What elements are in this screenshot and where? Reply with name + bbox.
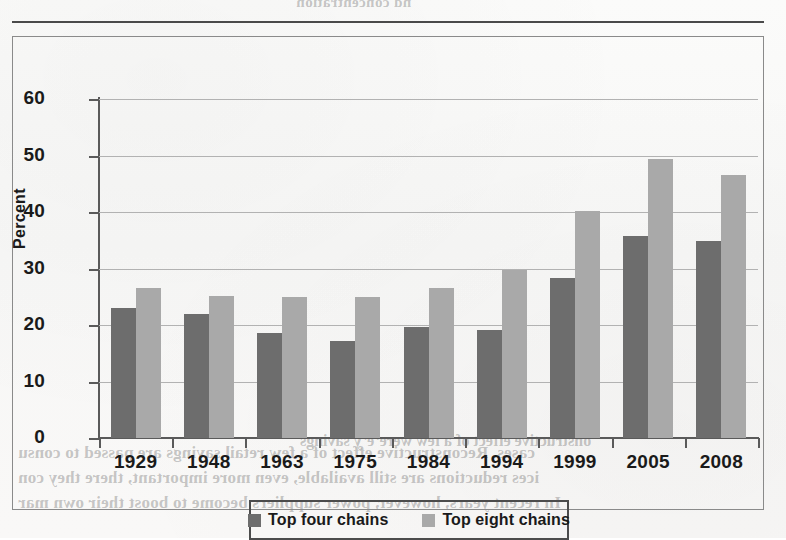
bar-2005-series-1 [648, 159, 673, 438]
x-axis-tick [172, 438, 174, 448]
x-axis-tick [465, 438, 467, 448]
y-axis-tick-label: 20 [5, 313, 45, 335]
x-axis-tick [612, 438, 614, 448]
bar-2008-series-1 [721, 175, 746, 438]
x-axis-tick [245, 438, 247, 448]
y-axis-tick-label: 50 [5, 144, 45, 166]
y-axis-tick-label: 40 [5, 200, 45, 222]
legend-label: Top eight chains [442, 511, 570, 529]
horizontal-rule [12, 21, 764, 23]
bar-1948-series-1 [209, 296, 234, 438]
bar-1999-series-0 [550, 278, 575, 438]
bar-1929-series-1 [136, 288, 161, 438]
bar-2005-series-0 [623, 236, 648, 438]
bar-1999-series-1 [575, 211, 600, 438]
x-axis-tick [319, 438, 321, 448]
bar-2008-series-0 [696, 241, 721, 438]
legend-item-1: Top eight chains [422, 511, 570, 529]
legend-item-0: Top four chains [248, 511, 388, 529]
y-axis-tick-label: 10 [5, 370, 45, 392]
y-axis-tick-label: 0 [5, 426, 45, 448]
plot-area [99, 99, 758, 438]
legend-swatch-icon [422, 514, 435, 527]
bar-1984-series-1 [429, 288, 454, 438]
bar-1963-series-0 [257, 333, 282, 438]
y-axis-tick-label: 60 [5, 87, 45, 109]
bar-1963-series-1 [282, 297, 307, 438]
bar-1948-series-0 [184, 314, 209, 438]
bar-chart: Percent 0102030405060 192919481963197519… [12, 36, 764, 510]
bar-1994-series-0 [477, 330, 502, 438]
legend-label: Top four chains [268, 511, 388, 529]
bar-1929-series-0 [111, 308, 136, 438]
x-axis-tick [538, 438, 540, 448]
chart-legend: Top four chainsTop eight chains [249, 500, 569, 540]
bar-1984-series-0 [404, 327, 429, 438]
x-axis-tick-label-2008: 2008 [676, 451, 766, 473]
bar-1975-series-1 [355, 297, 380, 438]
y-axis-tick-label: 30 [5, 257, 45, 279]
legend-swatch-icon [248, 514, 261, 527]
x-axis-tick [392, 438, 394, 448]
gridline [99, 156, 758, 157]
x-axis-tick [758, 438, 760, 448]
gridline [99, 99, 758, 100]
bar-1975-series-0 [330, 341, 355, 438]
bleed-through-text-top: nd concentration [296, 0, 411, 11]
bar-1994-series-1 [502, 270, 527, 438]
x-axis-tick [99, 438, 101, 448]
x-axis-tick [685, 438, 687, 448]
